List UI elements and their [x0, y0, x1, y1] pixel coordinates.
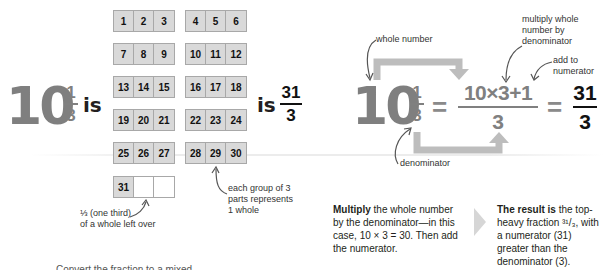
fraction-bar: [573, 106, 597, 108]
footer-caption-cut: Convert the fraction to a mixed...: [56, 264, 201, 270]
cell: 12: [226, 44, 246, 64]
cell: 18: [226, 77, 246, 97]
group-4: 10 11 12: [185, 43, 247, 65]
cell: 8: [134, 44, 154, 64]
result-fraction: 31 3: [573, 82, 597, 132]
group-1: 1 2 3: [113, 10, 175, 32]
improper-fraction-left: 31 3: [280, 84, 302, 124]
cell: 14: [134, 77, 154, 97]
cell: 6: [226, 11, 246, 31]
cell: 17: [206, 77, 226, 97]
is-word-left: is: [83, 93, 102, 117]
leftover-annotation-line1: ⅓ (one third): [80, 208, 131, 219]
group-3: 7 8 9: [113, 43, 175, 65]
fraction-bar: [458, 106, 538, 108]
left-fraction: 1 3: [64, 84, 78, 124]
cell: 7: [114, 44, 134, 64]
cell-empty: [134, 177, 154, 197]
expanded-fraction: 10×3+1 3: [458, 82, 538, 132]
cell: 27: [154, 143, 174, 163]
cell: 15: [154, 77, 174, 97]
cell: 16: [186, 77, 206, 97]
cell: 19: [114, 110, 134, 130]
group-2: 4 5 6: [185, 10, 247, 32]
cell: 9: [154, 44, 174, 64]
label-multiply: multiply whole number by denominator: [522, 14, 579, 47]
bracket-arrow-bottom-icon: [413, 130, 509, 156]
cell: 2: [134, 11, 154, 31]
group-7: 19 20 21: [113, 109, 175, 131]
group-5: 13 14 15: [113, 76, 175, 98]
result-denominator: 3: [579, 111, 591, 132]
cell: 20: [134, 110, 154, 130]
left-fraction-denominator: 3: [66, 107, 75, 124]
group-8: 22 23 24: [185, 109, 247, 131]
group-10: 28 29 30: [185, 142, 247, 164]
cell: 21: [154, 110, 174, 130]
cell: 5: [206, 11, 226, 31]
explanation-step-2: The result is the top-heavy fraction ³¹/…: [497, 203, 604, 268]
curved-arrow-icon: [500, 44, 524, 84]
fraction-bar: [410, 103, 424, 105]
cell: 11: [206, 44, 226, 64]
equation-numerator: 1: [412, 84, 421, 101]
fraction-bar: [64, 103, 78, 105]
cell: 26: [134, 143, 154, 163]
fraction-bar: [280, 103, 302, 105]
cell: 10: [186, 44, 206, 64]
cell: 1: [114, 11, 134, 31]
equals-sign-1: =: [432, 92, 447, 123]
improper-denominator: 3: [286, 107, 295, 124]
cell: 31: [114, 177, 134, 197]
equals-sign-2: =: [547, 92, 562, 123]
expanded-numerator: 10×3+1: [464, 82, 532, 103]
explanation-step-2-bold: The result is: [497, 204, 556, 215]
cell-empty: [154, 177, 174, 197]
label-whole-number: whole number: [376, 34, 433, 45]
left-whole-number: 10: [6, 78, 72, 134]
cell: 3: [154, 11, 174, 31]
equation-fraction: 1 3: [410, 84, 424, 124]
group-leftover: 31: [113, 176, 175, 198]
cell: 29: [206, 143, 226, 163]
curved-arrow-icon: [530, 60, 554, 82]
cell: 25: [114, 143, 134, 163]
curved-arrow-icon: [200, 165, 230, 197]
equation-denominator: 3: [412, 107, 421, 124]
label-add: add to numerator: [553, 55, 594, 77]
cell: 24: [226, 110, 246, 130]
next-step-arrow-icon: [474, 208, 486, 236]
explanation-step-1: Multiply the whole number by the denomin…: [333, 203, 463, 255]
cell: 13: [114, 77, 134, 97]
group-6: 16 17 18: [185, 76, 247, 98]
is-word-right: is: [257, 93, 276, 117]
label-denominator: denominator: [400, 158, 450, 169]
group-9: 25 26 27: [113, 142, 175, 164]
expanded-denominator: 3: [492, 111, 504, 132]
leftover-annotation-line2: of a whole left over: [80, 219, 156, 230]
improper-numerator: 31: [282, 84, 301, 101]
result-numerator: 31: [573, 82, 596, 103]
left-fraction-numerator: 1: [66, 84, 75, 101]
cell: 23: [206, 110, 226, 130]
curved-arrow-icon: [362, 38, 380, 82]
explanation-step-1-bold: Multiply: [333, 204, 371, 215]
cell: 4: [186, 11, 206, 31]
curved-arrow-icon: [128, 199, 154, 219]
cell: 30: [226, 143, 246, 163]
cell: 28: [186, 143, 206, 163]
cell: 22: [186, 110, 206, 130]
group-annotation: each group of 3 parts represents 1 whole: [228, 183, 293, 216]
